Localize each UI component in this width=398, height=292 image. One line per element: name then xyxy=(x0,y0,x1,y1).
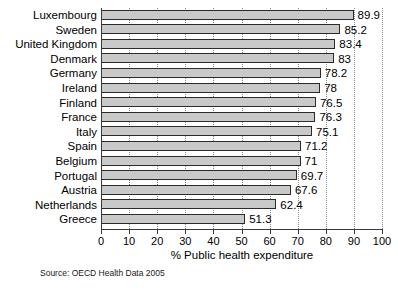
tick-label-30: 30 xyxy=(170,235,200,247)
category-label-italy: Italy xyxy=(0,125,97,140)
category-label-luxembourg: Luxembourg xyxy=(0,8,97,23)
bar-luxembourg xyxy=(101,10,354,20)
bar-row: 76.5 xyxy=(101,96,382,111)
tick-mark-40 xyxy=(213,230,214,234)
bar-value-label: 71.2 xyxy=(305,139,327,154)
category-label-greece: Greece xyxy=(0,212,97,227)
bar-value-label: 71 xyxy=(305,154,318,169)
bar-value-label: 89.9 xyxy=(358,8,380,23)
bar-row: 85.2 xyxy=(101,23,382,38)
tick-mark-50 xyxy=(242,230,243,234)
x-axis-title: % Public health expenditure xyxy=(101,249,383,262)
bar-row: 71 xyxy=(101,154,382,169)
bar-row: 71.2 xyxy=(101,139,382,154)
bar-row: 83 xyxy=(101,52,382,67)
tick-label-70: 70 xyxy=(283,235,313,247)
bar-value-label: 51.3 xyxy=(249,212,271,227)
bar-row: 62.4 xyxy=(101,198,382,213)
category-label-france: France xyxy=(0,110,97,125)
category-label-netherlands: Netherlands xyxy=(0,198,97,213)
bar-row: 67.6 xyxy=(101,183,382,198)
bar-germany xyxy=(101,68,321,78)
bar-value-label: 83.4 xyxy=(339,37,361,52)
tick-mark-20 xyxy=(157,230,158,234)
bar-denmark xyxy=(101,53,334,63)
bar-value-label: 76.3 xyxy=(319,110,341,125)
bar-sweden xyxy=(101,24,340,34)
bar-chart: 89.985.283.48378.27876.576.375.171.27169… xyxy=(0,0,398,292)
category-label-united-kingdom: United Kingdom xyxy=(0,37,97,52)
bar-value-label: 67.6 xyxy=(295,183,317,198)
tick-label-80: 80 xyxy=(311,235,341,247)
tick-label-0: 0 xyxy=(86,235,116,247)
bar-row: 78.2 xyxy=(101,66,382,81)
tick-mark-70 xyxy=(298,230,299,234)
bar-france xyxy=(101,112,315,122)
gridline-100 xyxy=(382,8,383,229)
tick-label-40: 40 xyxy=(198,235,228,247)
bar-row: 76.3 xyxy=(101,110,382,125)
bar-finland xyxy=(101,97,316,107)
tick-mark-60 xyxy=(270,230,271,234)
tick-label-60: 60 xyxy=(255,235,285,247)
bar-value-label: 78.2 xyxy=(325,66,347,81)
tick-mark-90 xyxy=(354,230,355,234)
tick-mark-30 xyxy=(185,230,186,234)
plot-area: 89.985.283.48378.27876.576.375.171.27169… xyxy=(101,8,382,229)
bar-belgium xyxy=(101,156,301,166)
bar-united-kingdom xyxy=(101,39,335,49)
category-label-austria: Austria xyxy=(0,183,97,198)
tick-mark-0 xyxy=(101,230,102,234)
bar-netherlands xyxy=(101,199,276,209)
bar-italy xyxy=(101,126,312,136)
bar-ireland xyxy=(101,83,320,93)
category-label-portugal: Portugal xyxy=(0,169,97,184)
bar-austria xyxy=(101,185,291,195)
bar-row: 51.3 xyxy=(101,212,382,227)
bar-row: 89.9 xyxy=(101,8,382,23)
tick-label-50: 50 xyxy=(227,235,257,247)
bar-greece xyxy=(101,214,245,224)
bar-value-label: 75.1 xyxy=(316,125,338,140)
bar-row: 83.4 xyxy=(101,37,382,52)
bar-portugal xyxy=(101,170,297,180)
category-label-spain: Spain xyxy=(0,139,97,154)
category-label-sweden: Sweden xyxy=(0,23,97,38)
category-label-ireland: Ireland xyxy=(0,81,97,96)
bar-spain xyxy=(101,141,301,151)
bar-row: 69.7 xyxy=(101,169,382,184)
bar-row: 75.1 xyxy=(101,125,382,140)
tick-label-20: 20 xyxy=(142,235,172,247)
category-label-germany: Germany xyxy=(0,66,97,81)
tick-mark-80 xyxy=(326,230,327,234)
tick-label-10: 10 xyxy=(114,235,144,247)
bar-value-label: 62.4 xyxy=(280,198,302,213)
tick-label-90: 90 xyxy=(339,235,369,247)
category-label-finland: Finland xyxy=(0,96,97,111)
bar-value-label: 85.2 xyxy=(344,23,366,38)
tick-mark-100 xyxy=(382,230,383,234)
y-axis-line xyxy=(101,8,102,229)
source-note: Source: OECD Health Data 2005 xyxy=(40,268,165,278)
tick-mark-10 xyxy=(129,230,130,234)
bar-value-label: 76.5 xyxy=(320,96,342,111)
bar-row: 78 xyxy=(101,81,382,96)
bar-value-label: 78 xyxy=(324,81,337,96)
bar-value-label: 69.7 xyxy=(301,169,323,184)
category-label-belgium: Belgium xyxy=(0,154,97,169)
bar-value-label: 83 xyxy=(338,52,351,67)
tick-label-100: 100 xyxy=(367,235,397,247)
category-label-denmark: Denmark xyxy=(0,52,97,67)
